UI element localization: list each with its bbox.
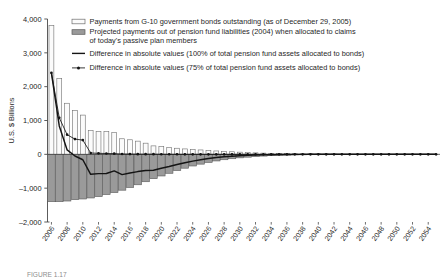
difference-75pct-marker xyxy=(348,153,351,156)
bar-bonds-outstanding xyxy=(143,143,148,154)
difference-75pct-marker xyxy=(144,153,147,156)
difference-75pct-marker xyxy=(403,153,406,156)
bar-bonds-outstanding xyxy=(104,132,109,155)
difference-75pct-marker xyxy=(74,138,77,141)
difference-75pct-marker xyxy=(356,153,359,156)
y-axis-title-text: U.S. $ Billions xyxy=(7,97,16,143)
y-axis-tick-label: 1,000 xyxy=(23,116,42,125)
legend-item-label: Difference in absolute values (75% of to… xyxy=(90,63,361,72)
difference-75pct-marker xyxy=(223,153,226,156)
difference-75pct-marker xyxy=(278,153,281,156)
difference-75pct-marker xyxy=(333,153,336,156)
legend-item: Projected payments out of pension fund l… xyxy=(72,27,356,36)
bar-bonds-outstanding xyxy=(80,115,85,154)
bar-pension-liability xyxy=(87,154,95,198)
y-axis-tick-label: 0 xyxy=(37,150,41,159)
difference-75pct-marker xyxy=(58,116,61,119)
difference-75pct-marker xyxy=(309,153,312,156)
difference-75pct-marker xyxy=(168,153,171,156)
bar-bonds-outstanding xyxy=(127,140,132,155)
difference-75pct-marker xyxy=(66,133,69,136)
y-axis-tick-label: 3,000 xyxy=(23,49,42,58)
bar-pension-liability xyxy=(142,154,150,181)
legend-item: Difference in absolute values (75% of to… xyxy=(72,63,360,72)
bar-bonds-outstanding xyxy=(112,133,117,155)
bar-pension-liability xyxy=(63,154,71,201)
difference-75pct-marker xyxy=(184,153,187,156)
y-axis-tick-label: –2,000 xyxy=(19,218,42,227)
y-axis-tick-label: –1,000 xyxy=(19,184,42,193)
pension-bond-payments-chart: 4,0003,0002,0001,0000–1,000–2,000 U.S. $… xyxy=(0,0,447,278)
difference-75pct-marker xyxy=(380,153,383,156)
chart-figure: 4,0003,0002,0001,0000–1,000–2,000 U.S. $… xyxy=(0,0,447,278)
bar-pension-liability xyxy=(150,154,158,178)
difference-75pct-marker xyxy=(81,139,84,142)
y-axis-tick-label: 4,000 xyxy=(23,15,42,24)
y-axis-title: U.S. $ Billions xyxy=(7,97,16,143)
bar-pension-liability xyxy=(110,154,118,192)
difference-75pct-marker xyxy=(105,152,108,155)
bar-pension-liability xyxy=(158,154,166,176)
difference-75pct-marker xyxy=(395,153,398,156)
bar-pension-liability xyxy=(95,154,103,196)
legend-swatch-marker-dot xyxy=(77,66,80,69)
difference-75pct-marker xyxy=(286,153,289,156)
difference-75pct-marker xyxy=(270,153,273,156)
difference-75pct-marker xyxy=(317,153,320,156)
legend-item-label: Payments from G-10 government bonds outs… xyxy=(90,17,352,26)
bar-pension-liability xyxy=(56,154,64,201)
legend-item-label: Projected payments out of pension fund l… xyxy=(90,27,357,36)
difference-75pct-marker xyxy=(301,153,304,156)
bar-pension-liability xyxy=(48,154,56,201)
difference-75pct-marker xyxy=(129,153,132,156)
difference-75pct-marker xyxy=(215,153,218,156)
legend-item-label: Difference in absolute values (100% of t… xyxy=(90,49,365,58)
legend-item-label: of today's passive plan members xyxy=(90,36,198,45)
difference-75pct-marker xyxy=(160,153,163,156)
difference-75pct-marker xyxy=(231,153,234,156)
difference-75pct-marker xyxy=(364,153,367,156)
bar-bonds-outstanding xyxy=(49,25,54,154)
bar-pension-liability xyxy=(103,154,111,194)
bar-bonds-outstanding xyxy=(120,139,125,155)
difference-75pct-marker xyxy=(50,71,53,74)
difference-75pct-marker xyxy=(246,153,249,156)
bar-pension-liability xyxy=(71,154,79,199)
legend-item: of today's passive plan members xyxy=(90,36,198,45)
legend-item: Difference in absolute values (100% of t… xyxy=(72,49,364,58)
legend-swatch-bar-white xyxy=(72,19,85,24)
difference-75pct-marker xyxy=(97,152,100,155)
bar-bonds-outstanding xyxy=(135,141,140,154)
difference-75pct-marker xyxy=(325,153,328,156)
difference-75pct-marker xyxy=(427,153,430,156)
difference-75pct-marker xyxy=(254,153,257,156)
difference-75pct-marker xyxy=(89,152,92,155)
bar-pension-liability xyxy=(126,154,134,187)
difference-75pct-marker xyxy=(372,153,375,156)
legend-item: Payments from G-10 government bonds outs… xyxy=(72,17,351,26)
bar-bonds-outstanding xyxy=(96,131,101,154)
difference-75pct-marker xyxy=(419,153,422,156)
difference-75pct-marker xyxy=(113,152,116,155)
difference-75pct-marker xyxy=(238,153,241,156)
y-axis-tick-label: 2,000 xyxy=(23,82,42,91)
legend-swatch-bar-gray xyxy=(72,30,85,35)
difference-75pct-marker xyxy=(388,153,391,156)
bar-bonds-outstanding xyxy=(73,111,78,155)
bar-pension-liability xyxy=(181,154,189,168)
difference-75pct-marker xyxy=(341,153,344,156)
difference-75pct-marker xyxy=(199,153,202,156)
difference-75pct-marker xyxy=(152,153,155,156)
bar-pension-liability xyxy=(134,154,142,184)
bar-pension-liability xyxy=(118,154,126,190)
bar-pension-liability xyxy=(173,154,181,170)
difference-75pct-marker xyxy=(121,153,124,156)
difference-75pct-marker xyxy=(411,153,414,156)
difference-75pct-marker xyxy=(293,153,296,156)
difference-75pct-marker xyxy=(435,153,438,156)
difference-75pct-marker xyxy=(191,153,194,156)
difference-75pct-marker xyxy=(262,153,265,156)
difference-75pct-marker xyxy=(136,153,139,156)
difference-75pct-marker xyxy=(176,153,179,156)
bar-pension-liability xyxy=(165,154,173,173)
